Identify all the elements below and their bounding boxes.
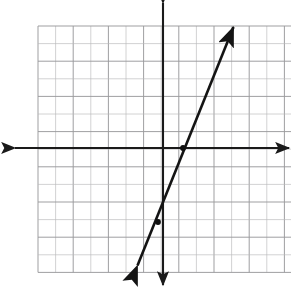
plotted-point (155, 219, 161, 225)
worksheet-problem-canvas: 7. (0, 0, 291, 291)
plotted-point (180, 145, 186, 151)
coordinate-graph (0, 0, 291, 291)
